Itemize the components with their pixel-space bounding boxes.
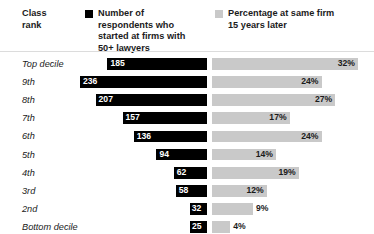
chart-row: 4th6219% <box>0 164 374 182</box>
row-label-2nd: 2nd <box>0 200 98 218</box>
row-label-7th: 7th <box>0 109 98 127</box>
percent-bar-value: 24% <box>301 131 318 143</box>
row-axis-title: Class rank <box>22 8 82 31</box>
count-bar-value: 62 <box>177 167 187 179</box>
chart-row: Top decile18532% <box>0 55 374 73</box>
percent-bar: 12% <box>212 185 267 197</box>
percent-bar-value: 32% <box>338 58 355 70</box>
legend-item-percentage: Percentage at same firm 15 years later <box>215 8 335 31</box>
row-label-4th: 4th <box>0 164 98 182</box>
percent-bar-value: 9% <box>256 203 268 215</box>
percent-bar-value: 19% <box>278 167 295 179</box>
percent-bar: 4% <box>212 221 230 233</box>
chart-row: 8th20727% <box>0 91 374 109</box>
legend-label-percentage: Percentage at same firm 15 years later <box>228 8 335 31</box>
count-bar-value: 94 <box>159 149 169 161</box>
count-bar: 136 <box>134 131 207 143</box>
percent-bar-value: 12% <box>247 185 264 197</box>
chart-row: 5th9414% <box>0 146 374 164</box>
count-bar: 25 <box>190 221 207 233</box>
count-bar-value: 58 <box>179 185 189 197</box>
count-bar: 185 <box>107 58 207 70</box>
row-label-8th: 8th <box>0 91 98 109</box>
count-bar-value: 25 <box>192 221 202 233</box>
chart-row: 3rd5812% <box>0 182 374 200</box>
chart-row: Bottom decile254% <box>0 218 374 234</box>
count-bar-value: 32 <box>192 203 202 215</box>
count-bar-value: 136 <box>137 131 151 143</box>
paired-bar-chart: Class rank Number of respondents who sta… <box>0 0 374 234</box>
count-bar-value: 236 <box>83 76 97 88</box>
count-bar: 32 <box>190 203 207 215</box>
row-axis-title-line1: Class <box>22 8 47 18</box>
percent-bar: 9% <box>212 203 253 215</box>
row-axis-title-line2: rank <box>22 20 41 30</box>
chart-header: Class rank Number of respondents who sta… <box>0 0 374 52</box>
legend-swatch-black-icon <box>85 10 93 18</box>
percent-bar: 27% <box>212 94 335 106</box>
percent-bar: 24% <box>212 131 322 143</box>
legend-item-respondent-count: Number of respondents who started at fir… <box>85 8 200 54</box>
chart-row: 9th23624% <box>0 73 374 91</box>
chart-row: 7th15717% <box>0 109 374 127</box>
count-bar-value: 185 <box>110 58 124 70</box>
count-bar: 58 <box>176 185 207 197</box>
count-bar-value: 157 <box>126 112 140 124</box>
percent-bar: 24% <box>212 76 322 88</box>
percent-bar-value: 24% <box>301 76 318 88</box>
legend-label-respondent-count: Number of respondents who started at fir… <box>98 8 200 54</box>
percent-bar: 19% <box>212 167 299 179</box>
row-label-top-decile: Top decile <box>0 55 98 73</box>
count-bar: 157 <box>123 112 207 124</box>
count-bar: 236 <box>80 76 207 88</box>
chart-row: 2nd329% <box>0 200 374 218</box>
chart-row: 6th13624% <box>0 127 374 145</box>
percent-bar: 32% <box>212 58 358 70</box>
percent-bar: 14% <box>212 149 276 161</box>
count-bar-value: 207 <box>99 94 113 106</box>
row-label-bottom-decile: Bottom decile <box>0 218 98 234</box>
row-label-3rd: 3rd <box>0 182 98 200</box>
row-label-6th: 6th <box>0 127 98 145</box>
count-bar: 62 <box>174 167 207 179</box>
percent-bar-value: 14% <box>256 149 273 161</box>
percent-bar-value: 4% <box>233 221 245 233</box>
row-label-5th: 5th <box>0 146 98 164</box>
count-bar: 94 <box>156 149 207 161</box>
legend-swatch-gray-icon <box>215 10 223 18</box>
percent-bar-value: 27% <box>315 94 332 106</box>
count-bar: 207 <box>96 94 207 106</box>
chart-plot-area: Top decile18532%9th23624%8th20727%7th157… <box>0 52 374 234</box>
percent-bar: 17% <box>212 112 290 124</box>
percent-bar-value: 17% <box>269 112 286 124</box>
